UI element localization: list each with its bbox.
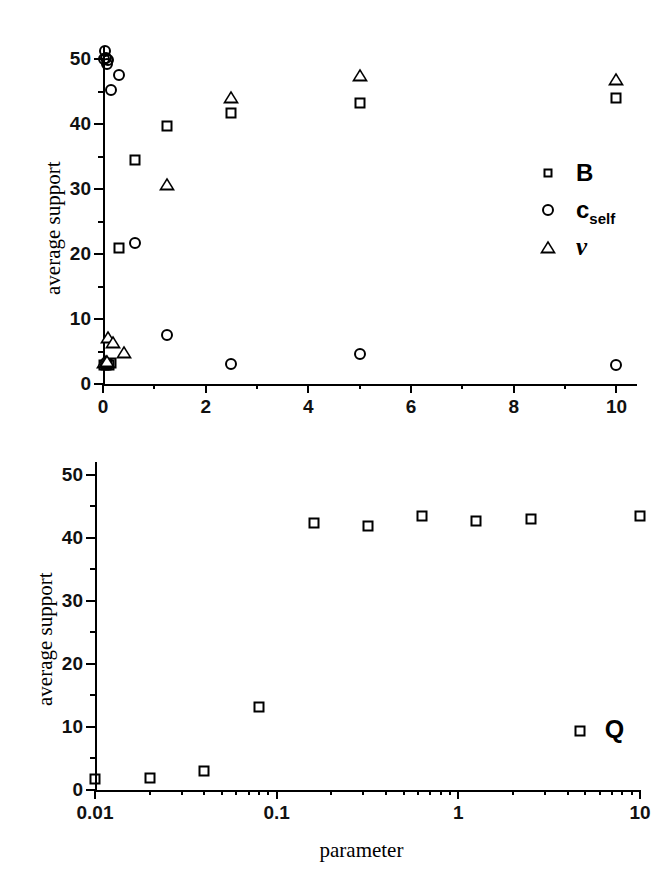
legend-row: B xyxy=(542,160,662,186)
x-tick-major xyxy=(513,384,515,393)
x-tick-label: 8 xyxy=(508,396,519,418)
x-axis-title: parameter xyxy=(320,838,404,863)
x-tick-major xyxy=(205,384,207,393)
x-tick-minor xyxy=(203,790,205,795)
x-tick-minor xyxy=(567,790,569,795)
x-tick-label: 10 xyxy=(629,802,650,824)
y-tick-label: 40 xyxy=(43,527,83,549)
data-point-c_self xyxy=(225,358,237,370)
x-tick-major xyxy=(410,384,412,393)
data-point-nu xyxy=(99,354,115,367)
data-point-Q xyxy=(254,701,265,712)
x-tick-minor xyxy=(330,790,332,795)
x-axis-line xyxy=(103,384,637,386)
y-tick-label: 0 xyxy=(51,373,91,395)
y-tick-minor xyxy=(90,568,96,570)
y-tick-label: 50 xyxy=(51,48,91,70)
x-tick-label: 0.01 xyxy=(77,802,114,824)
y-tick-label: 10 xyxy=(43,716,83,738)
x-tick-label: 0 xyxy=(98,396,109,418)
data-point-Q xyxy=(144,773,155,784)
x-tick-minor xyxy=(385,790,387,795)
data-point-B xyxy=(113,242,124,253)
x-tick-minor xyxy=(221,790,223,795)
x-tick-label: 6 xyxy=(406,396,417,418)
y-axis-line xyxy=(95,462,97,790)
y-tick-minor xyxy=(98,351,104,353)
x-tick-major xyxy=(94,790,96,799)
data-point-Q xyxy=(416,510,427,521)
y-tick-label: 0 xyxy=(43,779,83,801)
data-point-nu xyxy=(352,69,368,82)
y-tick-minor xyxy=(98,156,104,158)
data-point-c_self xyxy=(102,54,114,66)
data-point-B xyxy=(129,154,140,165)
data-point-c_self xyxy=(161,329,173,341)
x-tick-label: 0.1 xyxy=(263,802,289,824)
data-point-Q xyxy=(525,514,536,525)
data-point-Q xyxy=(470,516,481,527)
data-point-Q xyxy=(575,725,586,736)
data-point-c_self xyxy=(610,359,622,371)
legend-label: cself xyxy=(576,197,615,232)
y-tick-major xyxy=(86,726,96,728)
x-tick-minor xyxy=(258,790,260,795)
x-tick-minor xyxy=(362,790,364,795)
data-point-B xyxy=(162,120,173,131)
x-tick-minor xyxy=(449,790,451,795)
x-tick-label: 1 xyxy=(453,802,464,824)
y-tick-label: 40 xyxy=(51,113,91,135)
y-tick-major xyxy=(94,318,104,320)
x-tick-minor xyxy=(564,384,566,389)
y-tick-minor xyxy=(98,91,104,93)
data-point-nu xyxy=(608,72,624,85)
data-point-Q xyxy=(199,766,210,777)
x-axis-line xyxy=(95,790,640,792)
y-tick-minor xyxy=(90,757,96,759)
y-tick-major xyxy=(94,253,104,255)
y-tick-label: 50 xyxy=(43,464,83,486)
legend-label: B xyxy=(576,160,593,186)
x-tick-minor xyxy=(611,790,613,795)
data-point-c_self xyxy=(105,84,117,96)
x-tick-minor xyxy=(440,790,442,795)
data-point-c_self xyxy=(354,348,366,360)
series-tag-Q: Q xyxy=(605,715,624,744)
data-point-Q xyxy=(635,510,646,521)
x-tick-minor xyxy=(417,790,419,795)
x-tick-minor xyxy=(429,790,431,795)
legend-row: cself xyxy=(542,197,662,223)
legend-triangle-icon xyxy=(540,240,556,253)
y-axis-title: average support xyxy=(33,572,58,706)
y-tick-major xyxy=(86,663,96,665)
y-tick-label: 10 xyxy=(51,308,91,330)
x-tick-minor xyxy=(584,790,586,795)
data-point-c_self xyxy=(129,237,141,249)
y-tick-major xyxy=(86,600,96,602)
y-tick-major xyxy=(94,123,104,125)
data-point-nu xyxy=(159,178,175,191)
x-tick-minor xyxy=(267,790,269,795)
x-tick-major xyxy=(639,790,641,799)
data-point-nu xyxy=(223,90,239,103)
data-point-Q xyxy=(90,774,101,785)
x-tick-minor xyxy=(512,790,514,795)
data-point-B xyxy=(226,107,237,118)
data-point-c_self xyxy=(113,69,125,81)
y-tick-minor xyxy=(90,694,96,696)
x-tick-major xyxy=(457,790,459,799)
y-tick-major xyxy=(86,537,96,539)
y-tick-major xyxy=(94,188,104,190)
x-tick-minor xyxy=(599,790,601,795)
data-point-B xyxy=(354,98,365,109)
x-tick-minor xyxy=(544,790,546,795)
x-tick-minor xyxy=(153,384,155,389)
x-tick-label: 10 xyxy=(606,396,627,418)
x-tick-minor xyxy=(181,790,183,795)
x-tick-minor xyxy=(248,790,250,795)
legend-label: ν xyxy=(576,234,587,260)
data-point-Q xyxy=(308,518,319,529)
x-tick-major xyxy=(307,384,309,393)
x-tick-minor xyxy=(631,790,633,795)
legend-square-icon xyxy=(544,168,553,177)
